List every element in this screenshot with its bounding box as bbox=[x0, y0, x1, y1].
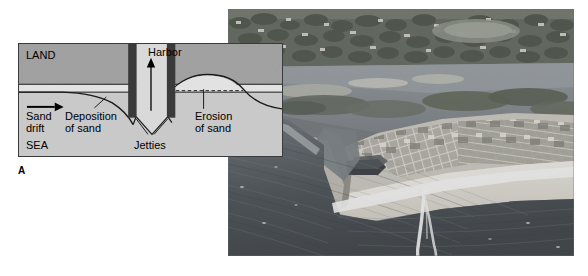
left-jetty bbox=[128, 44, 136, 118]
label-erosion-of-sand: Erosion of sand bbox=[195, 111, 232, 134]
label-sand-drift: Sand drift bbox=[26, 111, 52, 134]
panel-letter-a: A bbox=[18, 165, 25, 176]
label-harbor: Harbor bbox=[148, 47, 182, 59]
label-sea: SEA bbox=[26, 140, 48, 152]
label-jetties: Jetties bbox=[134, 140, 166, 152]
label-deposition-of-sand: Deposition of sand bbox=[65, 111, 117, 134]
label-land: LAND bbox=[26, 50, 55, 62]
